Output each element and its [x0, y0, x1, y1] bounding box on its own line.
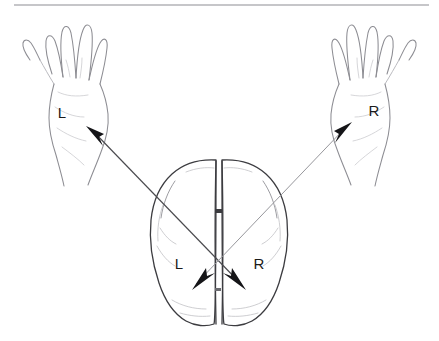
pathway-arrow-into-left-hemisphere [192, 268, 215, 290]
brain-sulcus-left-4 [157, 246, 175, 266]
left-hemisphere-label: L [175, 255, 183, 272]
left-hand-wrist-edge [49, 84, 64, 186]
arrowhead-at-left-hand [86, 126, 104, 146]
brain-sulcus-left-7 [180, 313, 210, 316]
brain-sulcus-right-3 [262, 228, 278, 244]
brain-sulcus-right-4 [263, 246, 281, 266]
left-hand-finger-detail-1 [66, 60, 70, 77]
left-hand-finger-detail-2 [80, 58, 82, 78]
arrowhead-into-right-hemisphere [223, 268, 246, 290]
brain-sulcus-left-5 [186, 168, 214, 172]
arrowhead-into-left-hemisphere [192, 268, 215, 290]
brain-left-hemisphere-outline [150, 160, 216, 326]
right-hand-palm-crease-3 [355, 147, 377, 165]
brain-sulcus-right-5 [224, 168, 252, 172]
brain-sulcus-right-6 [232, 300, 266, 309]
brain-illustration [150, 160, 287, 326]
right-hand-thumb-inner [385, 60, 399, 84]
right-hand-finger-detail-2 [357, 58, 359, 78]
left-hand-ring-finger [76, 25, 92, 80]
left-hand-thumb-outline [23, 40, 40, 60]
left-hand-palm-crease-2 [57, 128, 86, 141]
right-hand-label: R [369, 102, 380, 119]
contralateral-control-diagram: L R L R [0, 0, 439, 341]
right-hand-ring-finger [347, 25, 363, 80]
arrowhead-at-right-hand [334, 122, 352, 143]
left-hand-thumb-inner [40, 60, 54, 84]
pathway-arrow-into-right-hemisphere [223, 268, 246, 290]
right-hand-knuckle-crease [351, 92, 381, 96]
brain-sulcus-left-1 [161, 181, 175, 218]
right-hand-palm-crease-2 [353, 128, 382, 141]
brain-sulcus-left-3 [160, 228, 176, 244]
brain-right-hemisphere-outline [222, 160, 288, 326]
left-hand-index-finger [46, 36, 63, 77]
pathway-line-to-right-hand [196, 127, 346, 284]
right-hand-index-finger [376, 36, 393, 77]
left-hand-label: L [58, 104, 66, 121]
left-hand-knuckle-crease [58, 92, 88, 96]
figure-root: L R L R [0, 0, 439, 341]
right-hemisphere-label: R [254, 255, 265, 272]
brain-sulcus-right-7 [228, 313, 258, 316]
right-hand-finger-detail-1 [369, 60, 373, 77]
brain-sulcus-right-1 [263, 181, 277, 218]
right-hand-thumb-outline [399, 40, 416, 60]
right-hand-wrist-edge [375, 84, 390, 186]
left-hand-palm-crease-3 [62, 147, 84, 165]
brain-midline-mark-upper [215, 209, 222, 213]
brain-sulcus-left-6 [172, 300, 206, 309]
pathway-left-hemisphere-to-right-hand [196, 122, 352, 284]
brain-midline-mark-lower [215, 288, 221, 291]
